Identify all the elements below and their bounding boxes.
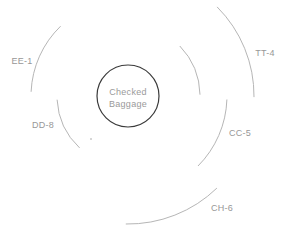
- center-node-label-line2: Baggage: [109, 99, 147, 109]
- stray-dot: [90, 138, 92, 140]
- belt-label-cc-5: CC-5: [229, 128, 251, 138]
- belt-arc-inner-upper-right: [180, 46, 200, 95]
- belt-arc-dd-8: [57, 100, 80, 148]
- center-node-label-line1: Checked: [109, 87, 147, 97]
- belt-arc-ee-1: [31, 26, 60, 92]
- baggage-carousel-diagram: EE-1DD-8TT-4CC-5CH-6 Checked Baggage: [0, 0, 288, 236]
- belt-label-ee-1: EE-1: [11, 56, 32, 66]
- center-node: Checked Baggage: [97, 65, 159, 127]
- belt-arc-ch-6: [126, 188, 217, 224]
- belt-arc-tt-4: [217, 7, 254, 97]
- belt-arc-cc-5: [198, 100, 227, 167]
- belt-label-tt-4: TT-4: [255, 48, 275, 58]
- belt-label-dd-8: DD-8: [32, 120, 54, 130]
- belt-label-ch-6: CH-6: [211, 203, 233, 213]
- belt-arcs-layer: EE-1DD-8TT-4CC-5CH-6: [11, 7, 274, 224]
- diagram-canvas: EE-1DD-8TT-4CC-5CH-6 Checked Baggage: [0, 0, 288, 236]
